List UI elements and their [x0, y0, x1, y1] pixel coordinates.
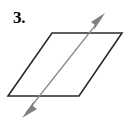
- geometry-figure: [0, 0, 129, 124]
- arrow-head-bottom-left-icon: [22, 101, 37, 118]
- figure-canvas: 3.: [0, 0, 129, 124]
